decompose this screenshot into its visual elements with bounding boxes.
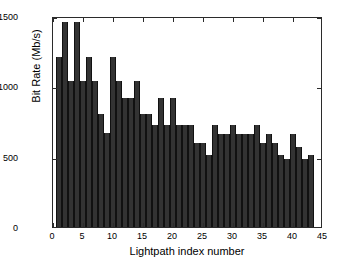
x-tick-label: 0 — [49, 231, 54, 241]
x-tick-label: 45 — [317, 231, 327, 241]
y-tick — [317, 18, 321, 19]
x-tick — [113, 18, 114, 22]
x-axis-label: Lightpath index number — [52, 245, 322, 257]
x-tick-label: 35 — [257, 231, 267, 241]
x-tick — [293, 18, 294, 22]
y-tick-label: 1500 — [0, 12, 18, 22]
x-tick-label: 30 — [227, 231, 237, 241]
y-tick-label: 500 — [3, 153, 18, 163]
x-tick — [233, 223, 234, 227]
x-tick — [173, 223, 174, 227]
x-tick-label: 40 — [287, 231, 297, 241]
bar-series — [53, 18, 321, 227]
x-tick — [203, 223, 204, 227]
x-tick — [53, 223, 54, 227]
x-tick-label: 10 — [107, 231, 117, 241]
x-tick — [293, 223, 294, 227]
x-tick — [233, 18, 234, 22]
x-tick — [143, 18, 144, 22]
y-tick — [317, 88, 321, 89]
y-tick — [53, 18, 57, 19]
x-tick-label: 20 — [167, 231, 177, 241]
x-tick — [143, 223, 144, 227]
x-tick — [263, 18, 264, 22]
plot-area — [52, 17, 322, 228]
x-tick — [83, 18, 84, 22]
x-tick-label: 15 — [137, 231, 147, 241]
y-tick — [53, 159, 57, 160]
y-tick — [53, 88, 57, 89]
x-tick-label: 5 — [79, 231, 84, 241]
x-tick — [203, 18, 204, 22]
bar — [308, 155, 314, 227]
figure-bit-rate-chart: Bit Rate (Mb/s) 050010001500 05101520253… — [0, 0, 343, 273]
x-tick — [113, 223, 114, 227]
y-tick — [317, 159, 321, 160]
y-tick-label: 0 — [13, 223, 18, 233]
y-axis-label: Bit Rate (Mb/s) — [30, 0, 42, 151]
y-tick-label: 1000 — [0, 82, 18, 92]
x-tick — [173, 18, 174, 22]
x-tick-label: 25 — [197, 231, 207, 241]
x-tick — [263, 223, 264, 227]
x-tick — [83, 223, 84, 227]
